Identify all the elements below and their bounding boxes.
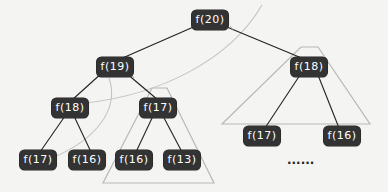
edge-f18r-f17 xyxy=(265,75,300,128)
edge-f20-f19 xyxy=(118,25,198,60)
node-f17-middle: f(17) xyxy=(140,98,177,118)
edge-f20-f18 xyxy=(222,25,304,59)
node-f19: f(19) xyxy=(97,57,134,77)
node-f16-left: f(16) xyxy=(69,150,106,170)
node-f17-right: f(17) xyxy=(244,126,281,146)
reuse-curve-f17 xyxy=(52,78,112,158)
node-f18-right: f(18) xyxy=(291,57,328,77)
node-f20: f(20) xyxy=(192,10,229,30)
node-f16-middle: f(16) xyxy=(116,150,153,170)
edge-f17-f13 xyxy=(163,116,182,152)
node-f17-left: f(17) xyxy=(20,150,57,170)
node-f16-right: f(16) xyxy=(324,126,361,146)
node-f18-left: f(18) xyxy=(52,98,89,118)
ellipsis: ...... xyxy=(287,153,314,167)
edge-f18r-f16 xyxy=(318,75,339,128)
edge-f18-f17 xyxy=(40,116,65,152)
edge-f17-f16 xyxy=(136,116,153,152)
node-f13-middle: f(13) xyxy=(164,150,201,170)
edge-f18-f16 xyxy=(74,116,91,152)
